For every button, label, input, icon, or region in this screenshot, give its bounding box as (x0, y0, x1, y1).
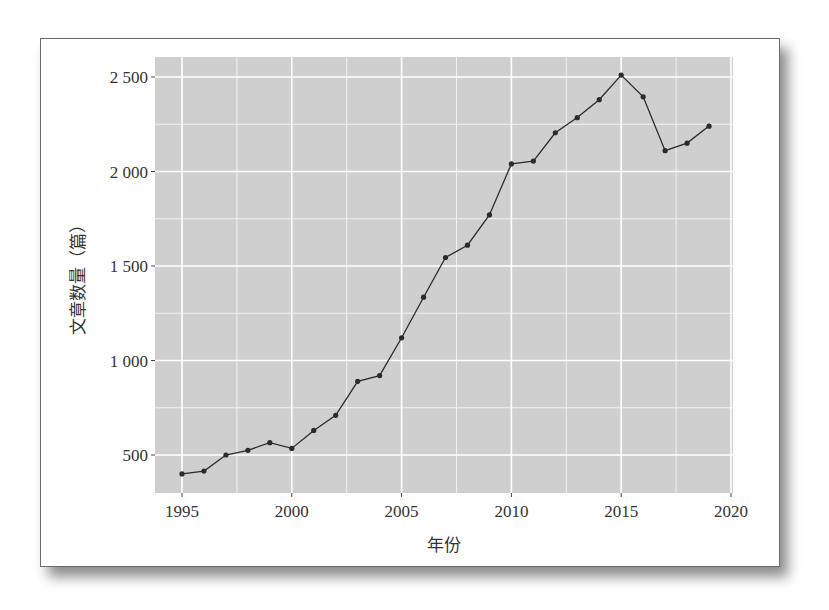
data-point (641, 94, 646, 99)
line-chart: 199520002005201020152020 5001 0001 5002 … (0, 0, 829, 610)
y-tick-label: 2 500 (110, 68, 148, 87)
y-tick-label: 500 (123, 446, 149, 465)
x-tick-label: 2020 (714, 502, 748, 521)
plot-panel (155, 57, 733, 493)
x-tick-label: 2010 (494, 502, 528, 521)
y-axis-tick-labels: 5001 0001 5002 0002 500 (110, 68, 148, 465)
data-point (399, 335, 404, 340)
data-point (179, 471, 184, 476)
data-point (597, 97, 602, 102)
data-point (355, 379, 360, 384)
data-point (443, 255, 448, 260)
data-point (619, 73, 624, 78)
data-point (465, 243, 470, 248)
data-point (245, 448, 250, 453)
data-point (575, 115, 580, 120)
data-point (223, 452, 228, 457)
data-point (377, 373, 382, 378)
data-point (663, 148, 668, 153)
data-point (553, 130, 558, 135)
x-tick-label: 2015 (604, 502, 638, 521)
x-axis-tick-labels: 199520002005201020152020 (165, 502, 748, 521)
data-point (684, 141, 689, 146)
data-point (487, 212, 492, 217)
data-point (509, 161, 514, 166)
data-point (311, 428, 316, 433)
y-tick-label: 2 000 (110, 163, 148, 182)
data-point (201, 468, 206, 473)
data-point (289, 446, 294, 451)
data-point (531, 159, 536, 164)
data-point (267, 440, 272, 445)
data-point (706, 124, 711, 129)
data-point (333, 413, 338, 418)
y-tick-label: 1 500 (110, 257, 148, 276)
x-tick-label: 2005 (385, 502, 419, 521)
y-tick-label: 1 000 (110, 352, 148, 371)
y-axis-title: 文章数量（篇） (68, 216, 88, 335)
data-point (421, 295, 426, 300)
x-tick-label: 1995 (165, 502, 199, 521)
x-tick-label: 2000 (275, 502, 309, 521)
x-axis-title: 年份 (427, 535, 461, 555)
